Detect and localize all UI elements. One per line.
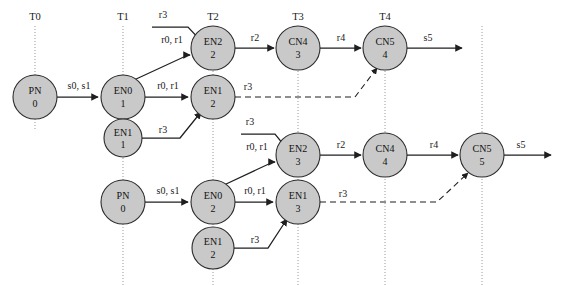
node-name: EN0 — [204, 190, 222, 201]
node-circle[interactable] — [101, 75, 145, 119]
node-circle[interactable] — [104, 119, 142, 157]
edge-label-r3-top-en1-1: r3 — [159, 124, 167, 135]
node-circle[interactable] — [460, 133, 504, 177]
diagram-canvas: T0 T1 T2 T3 T4 — [0, 0, 561, 285]
node-circle[interactable] — [191, 75, 235, 119]
node-cn4-3[interactable]: CN4 3 — [276, 26, 320, 70]
node-cn5-4[interactable]: CN5 4 — [363, 26, 407, 70]
node-cn4-4[interactable]: CN4 4 — [363, 133, 407, 177]
node-circle[interactable] — [13, 75, 57, 119]
node-circle[interactable] — [101, 180, 145, 224]
edge-label-s0s1-top: s0, s1 — [68, 80, 91, 91]
edge-label-r3-bottom-dashed: r3 — [339, 188, 347, 199]
node-name: EN2 — [289, 143, 307, 154]
edge-label-r3-top-input: r3 — [159, 9, 167, 20]
node-name: CN5 — [376, 36, 395, 47]
edge-label-r3-bottom-en1-2: r3 — [251, 234, 259, 245]
node-name: CN4 — [376, 143, 395, 154]
edge-label-r0r1-bottom-en1: r0, r1 — [244, 185, 266, 196]
timeline-labels-group: T0 T1 T2 T3 T4 — [29, 11, 391, 22]
node-index: 4 — [383, 156, 388, 167]
node-name: PN — [117, 190, 130, 201]
node-index: 2 — [211, 203, 216, 214]
edge-r0r1-bottom-en2 — [224, 162, 275, 185]
node-en0-1[interactable]: EN0 1 — [101, 75, 145, 119]
node-index: 1 — [121, 98, 126, 109]
edge-label-r3-bottom-input: r3 — [246, 116, 254, 127]
edge-label-r3-top-dashed: r3 — [244, 81, 252, 92]
node-pn-0-bottom[interactable]: PN 0 — [101, 180, 145, 224]
edge-r0r1-top-en2 — [134, 55, 190, 80]
node-name: CN4 — [289, 36, 308, 47]
node-index: 3 — [296, 49, 301, 60]
node-en1-2-bottom[interactable]: EN1 2 — [192, 227, 234, 269]
edge-label-r0r1-top-en1: r0, r1 — [157, 80, 179, 91]
node-cn5-5[interactable]: CN5 5 — [460, 133, 504, 177]
node-circle[interactable] — [363, 26, 407, 70]
edge-label-r0r1-bottom-en2: r0, r1 — [246, 141, 268, 152]
edge-r3-top-dashed — [235, 68, 377, 97]
node-en1-3[interactable]: EN1 3 — [276, 180, 320, 224]
timeline-label-t0: T0 — [29, 11, 41, 22]
node-name: PN — [29, 85, 42, 96]
edge-label-r2-top: r2 — [251, 32, 259, 43]
node-index: 2 — [211, 249, 216, 260]
node-index: 4 — [383, 49, 388, 60]
node-en1-2-top[interactable]: EN1 2 — [191, 75, 235, 119]
node-circle[interactable] — [276, 180, 320, 224]
timeline-label-t3: T3 — [292, 11, 304, 22]
node-name: EN1 — [114, 127, 132, 138]
node-index: 2 — [211, 49, 216, 60]
edge-label-r4-bottom: r4 — [430, 139, 438, 150]
node-name: EN0 — [114, 85, 132, 96]
node-circle[interactable] — [363, 133, 407, 177]
node-index: 1 — [121, 139, 126, 150]
node-name: EN1 — [289, 190, 307, 201]
node-en0-2[interactable]: EN0 2 — [191, 180, 235, 224]
node-name: EN1 — [204, 85, 222, 96]
edge-label-r0r1-top-en2: r0, r1 — [161, 34, 183, 45]
node-circle[interactable] — [191, 26, 235, 70]
edge-label-s0s1-bottom: s0, s1 — [157, 185, 180, 196]
node-en2-3[interactable]: EN2 3 — [276, 133, 320, 177]
node-en1-1[interactable]: EN1 1 — [104, 119, 142, 157]
edge-r3-top-en1-1 — [142, 112, 201, 138]
timeline-label-t2: T2 — [207, 11, 219, 22]
node-index: 5 — [480, 156, 485, 167]
node-circle[interactable] — [192, 227, 234, 269]
edge-label-s5-bottom: s5 — [517, 139, 526, 150]
node-name: EN2 — [204, 36, 222, 47]
edge-label-r4-top: r4 — [337, 32, 345, 43]
node-en2-2[interactable]: EN2 2 — [191, 26, 235, 70]
timeline-label-t1: T1 — [117, 11, 129, 22]
node-circle[interactable] — [276, 26, 320, 70]
timeline-label-t4: T4 — [379, 11, 391, 22]
node-index: 0 — [121, 203, 126, 214]
node-circle[interactable] — [191, 180, 235, 224]
edge-r3-bottom-en1-2 — [234, 219, 287, 248]
node-index: 3 — [296, 156, 301, 167]
node-name: EN1 — [204, 236, 222, 247]
sequence-diagram: T0 T1 T2 T3 T4 — [0, 0, 561, 285]
node-pn-0-top[interactable]: PN 0 — [13, 75, 57, 119]
node-index: 3 — [296, 203, 301, 214]
edge-label-r2-bottom: r2 — [337, 139, 345, 150]
edge-label-s5-top: s5 — [424, 32, 433, 43]
node-index: 2 — [211, 98, 216, 109]
node-name: CN5 — [473, 143, 492, 154]
node-index: 0 — [33, 98, 38, 109]
node-circle[interactable] — [276, 133, 320, 177]
